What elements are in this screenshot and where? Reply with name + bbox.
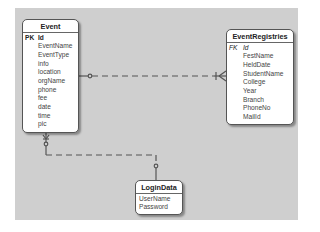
entity-title: EventRegistries [227, 30, 293, 43]
relationship-event-eventregistries [78, 71, 226, 81]
field-row: location [25, 68, 76, 77]
field-name: location [38, 68, 61, 77]
field-name: time [38, 112, 50, 121]
field-name: fee [38, 94, 47, 103]
field-row: Password [139, 203, 179, 212]
field-row: date [25, 103, 76, 112]
field-name: EventName [38, 42, 72, 51]
field-name: Id [243, 44, 249, 53]
field-row: Branch [229, 96, 291, 105]
field-name: info [38, 60, 49, 69]
entity-title: LoginData [136, 181, 182, 194]
entity-title: Event [23, 20, 78, 33]
field-name: phone [38, 86, 56, 95]
field-row: StudentName [229, 70, 291, 79]
field-row: EventType [25, 51, 76, 60]
field-name: UserName [139, 195, 171, 204]
field-row: FK Id [229, 44, 291, 53]
field-row: orgName [25, 77, 76, 86]
primary-key-label: PK [25, 34, 38, 43]
entity-eventregistries[interactable]: EventRegistries FK Id FestName HeldDate … [226, 29, 294, 125]
relationship-event-logindata [43, 132, 158, 180]
foreign-key-label: FK [229, 44, 243, 53]
field-name: Password [139, 203, 168, 212]
field-name: pic [38, 120, 46, 129]
field-row: HeldDate [229, 61, 291, 70]
field-row: PhoneNo [229, 104, 291, 113]
field-name: Branch [243, 96, 264, 105]
field-row: fee [25, 94, 76, 103]
field-row: Year [229, 87, 291, 96]
entity-logindata[interactable]: LoginData UserName Password [135, 180, 183, 215]
field-name: College [243, 78, 265, 87]
field-name: HeldDate [243, 61, 271, 70]
field-row: phone [25, 86, 76, 95]
field-row: time [25, 112, 76, 121]
field-name: Id [38, 34, 44, 43]
field-name: EventType [38, 51, 69, 60]
field-row: PK Id [25, 34, 76, 43]
field-name: MailId [243, 113, 261, 122]
field-row: info [25, 60, 76, 69]
field-name: orgName [38, 77, 65, 86]
field-name: StudentName [243, 70, 283, 79]
field-row: MailId [229, 113, 291, 122]
field-name: PhoneNo [243, 104, 271, 113]
field-row: EventName [25, 42, 76, 51]
field-name: Year [243, 87, 256, 96]
field-row: pic [25, 120, 76, 129]
entity-event[interactable]: Event PK Id EventName EventType info loc… [22, 19, 79, 133]
field-row: FestName [229, 52, 291, 61]
field-name: date [38, 103, 51, 112]
field-name: FestName [243, 52, 273, 61]
field-row: College [229, 78, 291, 87]
field-row: UserName [139, 195, 179, 204]
